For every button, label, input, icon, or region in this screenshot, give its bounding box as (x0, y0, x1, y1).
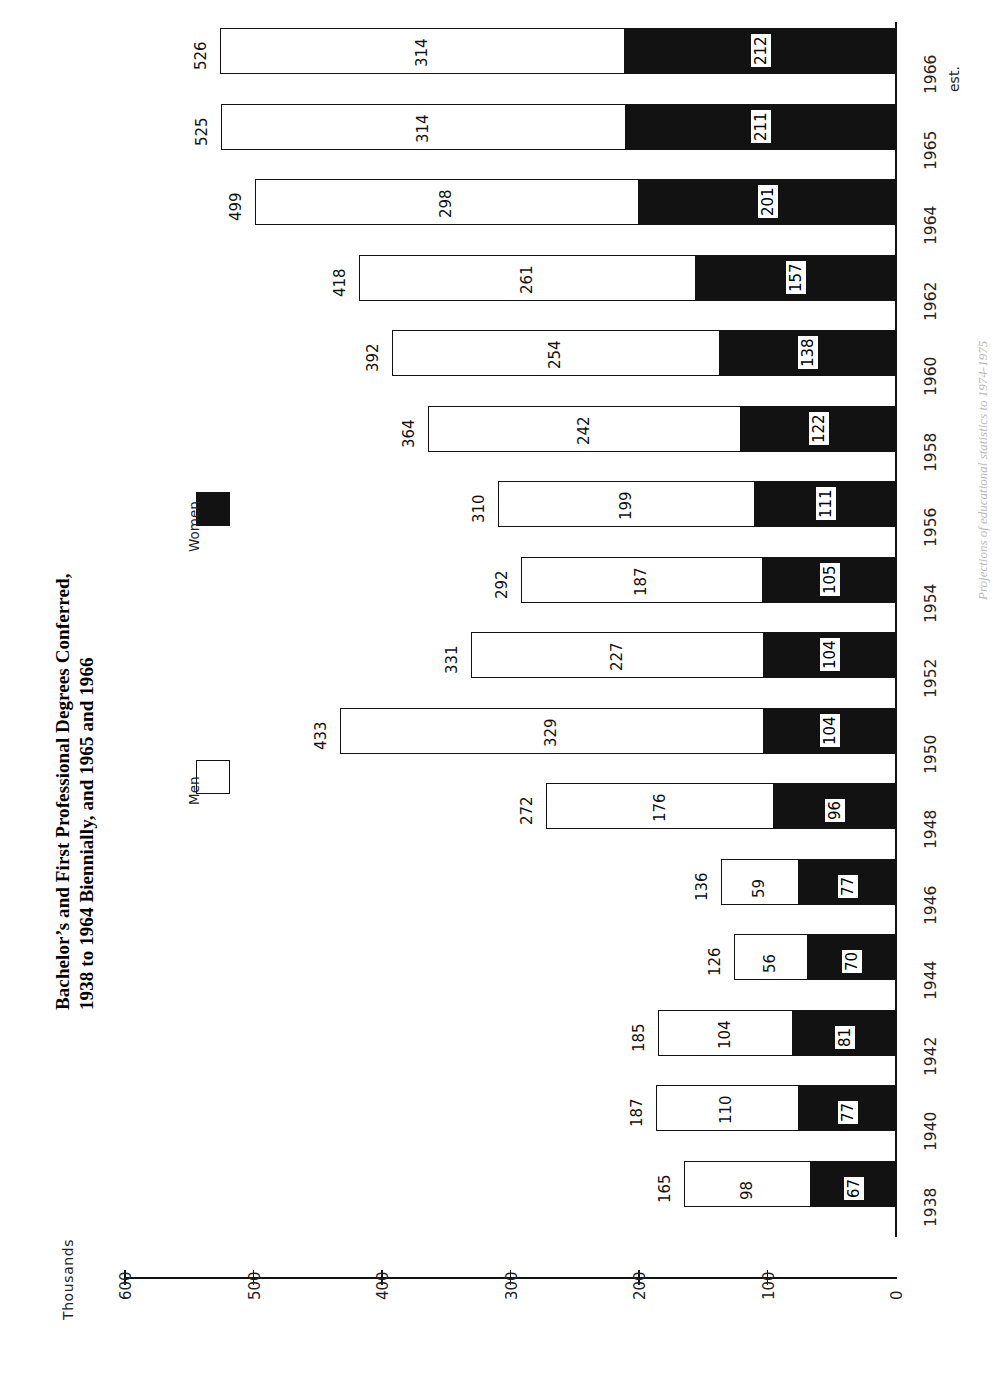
bar-value-women: 122 (809, 412, 829, 445)
bar-value-men: 104 (716, 1020, 734, 1049)
bar-row: 105187292 (0, 557, 995, 603)
bar-value-women: 70 (842, 950, 862, 973)
bar-value-women: 96 (825, 799, 845, 822)
bar-total-label: 126 (706, 947, 724, 976)
bar-total-label: 165 (656, 1174, 674, 1203)
bar-total-label: 418 (331, 268, 349, 297)
bar-row: 122242364 (0, 406, 995, 452)
axis-tick-label-600: 600 (117, 1271, 135, 1300)
source-note: Projections of educational statistics to… (975, 341, 991, 600)
bar-value-men: 187 (632, 567, 650, 596)
bar-value-men: 98 (738, 1180, 756, 1199)
bar-value-men: 298 (437, 189, 455, 218)
bar-total-label: 292 (493, 570, 511, 599)
bar-row: 96176272 (0, 783, 995, 829)
bar-value-men: 227 (608, 642, 626, 671)
bar-value-men: 314 (414, 114, 432, 143)
bar-value-men: 242 (575, 416, 593, 445)
bar-value-women: 67 (844, 1176, 864, 1199)
axis-tick-label-400: 400 (374, 1271, 392, 1300)
axis-tick-label-0: 0 (888, 1290, 906, 1300)
bar-total-label: 136 (693, 872, 711, 901)
bar-row: 7759136 (0, 859, 995, 905)
bar-value-men: 59 (750, 878, 768, 897)
bar-value-women: 77 (838, 874, 858, 897)
bar-row: 77110187 (0, 1085, 995, 1131)
bar-total-label: 364 (400, 419, 418, 448)
bar-row: 81104185 (0, 1010, 995, 1056)
chart-plot-area: Thousands 6005004003002001000 1966est.21… (0, 0, 995, 1386)
bar-total-label: 433 (312, 721, 330, 750)
bar-value-women: 81 (835, 1025, 855, 1048)
bar-value-men: 176 (651, 793, 669, 822)
bar-total-label: 272 (518, 796, 536, 825)
bar-value-women: 111 (816, 487, 836, 520)
bar-value-men: 56 (761, 954, 779, 973)
axis-tick-label-500: 500 (246, 1271, 264, 1300)
bar-total-label: 187 (628, 1098, 646, 1127)
bar-value-men: 314 (413, 38, 431, 67)
bar-total-label: 526 (192, 41, 210, 70)
bar-row: 212314526 (0, 28, 995, 74)
bar-total-label: 525 (193, 117, 211, 146)
bar-row: 201298499 (0, 179, 995, 225)
bar-row: 104329433 (0, 708, 995, 754)
bar-value-women: 212 (751, 34, 771, 67)
bar-row: 6798165 (0, 1161, 995, 1207)
axis-tick-label-300: 300 (503, 1271, 521, 1300)
bar-value-men: 329 (542, 718, 560, 747)
bar-total-label: 392 (364, 343, 382, 372)
bar-row: 211314525 (0, 104, 995, 150)
bar-value-men: 254 (546, 340, 564, 369)
bar-row: 7056126 (0, 934, 995, 980)
axis-title: Thousands (60, 1239, 76, 1320)
bar-value-women: 104 (820, 714, 840, 747)
bar-value-women: 201 (758, 185, 778, 218)
axis-tick-label-200: 200 (631, 1271, 649, 1300)
bar-row: 104227331 (0, 632, 995, 678)
bar-value-men: 199 (617, 491, 635, 520)
bar-total-label: 185 (630, 1023, 648, 1052)
bar-value-women: 138 (798, 336, 818, 369)
bar-value-women: 157 (786, 261, 806, 294)
bar-total-label: 310 (470, 494, 488, 523)
bar-value-men: 261 (518, 265, 536, 294)
bar-total-label: 331 (443, 645, 461, 674)
bar-value-women: 77 (838, 1101, 858, 1124)
bar-value-women: 211 (751, 110, 771, 143)
bar-total-label: 499 (227, 192, 245, 221)
bar-value-women: 104 (820, 638, 840, 671)
bar-row: 157261418 (0, 255, 995, 301)
bar-value-women: 105 (820, 563, 840, 596)
bar-row: 111199310 (0, 481, 995, 527)
bar-value-men: 110 (717, 1095, 735, 1124)
bar-row: 138254392 (0, 330, 995, 376)
axis-tick-label-100: 100 (760, 1271, 778, 1300)
